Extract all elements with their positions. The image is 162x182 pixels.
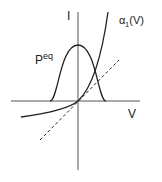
y-axis-label: I	[67, 9, 70, 23]
diagram-canvas: I V Peq α1(V)	[0, 0, 162, 182]
x-axis-label: V	[128, 107, 136, 121]
exponential-curve-label: α1(V)	[119, 14, 144, 28]
alpha-label-tail: (V)	[129, 14, 144, 26]
bell-label-sup: eq	[43, 51, 53, 61]
bell-curve-label: Peq	[35, 51, 53, 67]
bell-label-base: P	[35, 53, 43, 67]
